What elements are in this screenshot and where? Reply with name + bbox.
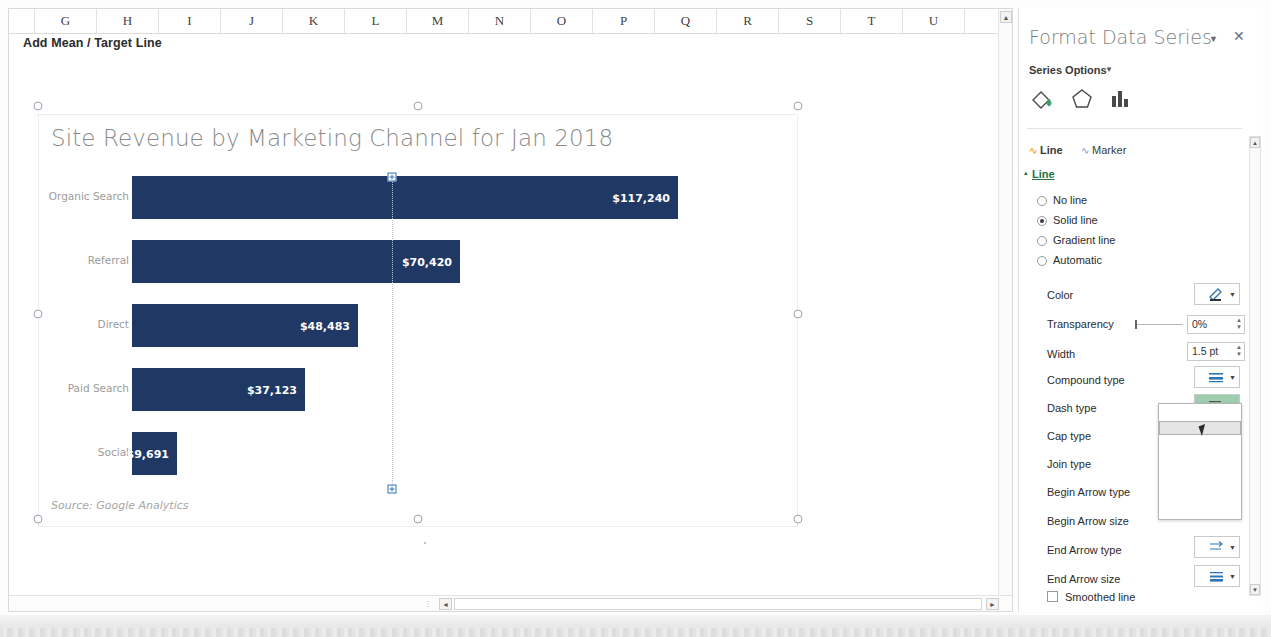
chart-object[interactable]: Site Revenue by Marketing Channel for Ja… [38,114,798,527]
tab-line[interactable]: ∿Line [1029,144,1063,156]
bar-paid-search[interactable]: $37,123 [132,368,305,411]
bar-social[interactable]: $9,691 [132,432,177,475]
bar-direct[interactable]: $48,483 [132,304,358,347]
sheet-scroll-left-arrow[interactable]: ◄ [439,598,452,610]
dash-option-dash[interactable] [1159,449,1241,463]
bar-referral[interactable]: $70,420 [132,240,460,283]
radio-row-no-line[interactable]: No line [1053,194,1087,206]
effects-pentagon-icon[interactable] [1069,86,1095,116]
chart-handle-middle-left[interactable] [34,310,43,319]
transparency-slider-knob[interactable] [1135,320,1137,329]
color-picker-button[interactable]: ▼ [1194,283,1240,305]
column-header-Q[interactable]: Q [655,9,717,33]
label-color: Color [1047,289,1073,301]
smoothed-line-checkbox[interactable] [1047,591,1058,602]
radio-label-no-line: No line [1053,194,1087,206]
transparency-slider-track[interactable] [1137,324,1183,325]
end-arrow-size-button[interactable]: ▼ [1194,565,1240,587]
end-arrow-type-button[interactable]: ▼ [1194,536,1240,558]
chart-handle-bottom-center[interactable] [414,515,423,524]
label-transparency: Transparency [1047,318,1114,330]
section-title-line[interactable]: Line [1032,168,1055,180]
column-header-S[interactable]: S [779,9,841,33]
radio-row-solid-line[interactable]: Solid line [1053,214,1098,226]
column-header-K[interactable]: K [283,9,345,33]
chart-handle-top-center[interactable] [414,102,423,111]
dash-type-gallery[interactable] [1158,403,1242,520]
radio-gradient-line[interactable] [1037,236,1047,246]
line-handle-top[interactable] [388,173,397,182]
fill-bucket-icon[interactable] [1029,86,1055,116]
chevron-down-icon[interactable]: ▼ [1229,291,1236,298]
label-begin-arrow-size: Begin Arrow size [1047,515,1129,527]
chevron-down-icon[interactable]: ▼ [1229,374,1236,381]
chart-title[interactable]: Site Revenue by Marketing Channel for Ja… [51,125,613,151]
radio-row-gradient-line[interactable]: Gradient line [1053,234,1115,246]
pane-scroll-up-arrow[interactable]: ▲ [1250,137,1260,148]
mean-target-line[interactable] [392,177,393,489]
sheet-vertical-scrollbar[interactable]: ▲ ▼ [998,9,1012,611]
spinner-arrows-icon[interactable]: ▲▼ [1236,344,1242,358]
cell-text-add-mean-target-line[interactable]: Add Mean / Target Line [23,36,162,50]
sheet-scroll-right-arrow[interactable]: ► [986,598,999,610]
pane-divider [1027,128,1242,129]
radio-solid-line[interactable] [1037,216,1047,226]
dash-option-dash-dot[interactable] [1159,463,1241,477]
dash-option-square-dot[interactable] [1159,435,1241,449]
transparency-input[interactable]: 0% ▲▼ [1187,315,1245,334]
width-input[interactable]: 1.5 pt ▲▼ [1187,342,1245,361]
format-data-series-pane: Format Data Series ▼ ✕ Series Options ▼ [1018,8,1263,612]
sheet-hscroll-track[interactable] [454,598,982,610]
series-bars-icon[interactable] [1107,86,1133,116]
close-icon[interactable]: ✕ [1233,28,1245,44]
radio-label-gradient-line: Gradient line [1053,234,1115,246]
pane-scroll-down-arrow[interactable]: ▼ [1250,584,1260,595]
chart-handle-bottom-left[interactable] [34,515,43,524]
chart-handle-middle-right[interactable] [794,310,803,319]
bar-organic-search[interactable]: $117,240 [132,176,678,219]
radio-row-automatic[interactable]: Automatic [1053,254,1102,266]
column-header-T[interactable]: T [841,9,903,33]
line-handle-bottom[interactable] [388,485,397,494]
column-header-O[interactable]: O [531,9,593,33]
column-header-H[interactable]: H [97,9,159,33]
column-header-P[interactable]: P [593,9,655,33]
radio-automatic[interactable] [1037,256,1047,266]
column-header-I[interactable]: I [159,9,221,33]
sheet-horizontal-scrollbar[interactable]: ⋮ ◄ ► [9,595,1012,611]
chevron-down-icon[interactable]: ▼ [1105,65,1113,74]
column-header-J[interactable]: J [221,9,283,33]
column-header-M[interactable]: M [407,9,469,33]
bar-value-paid-search: $37,123 [247,383,297,396]
column-header-L[interactable]: L [345,9,407,33]
bar-value-organic-search: $117,240 [612,191,670,204]
radio-no-line[interactable] [1037,196,1047,206]
chart-handle-top-left[interactable] [34,102,43,111]
dash-option-long-dash[interactable] [1159,477,1241,491]
dash-option-long-dash-dot[interactable] [1159,491,1241,505]
chevron-down-icon[interactable]: ▼ [1229,544,1236,551]
sheet-scroll-up-arrow[interactable]: ▲ [1000,11,1012,23]
dash-option-long-dash-dot-dot[interactable] [1159,505,1241,519]
column-header-R[interactable]: R [717,9,779,33]
spinner-arrows-icon[interactable]: ▲▼ [1236,317,1242,331]
app-window: G H I J K L M N O P Q R S T U Add Mean /… [0,0,1271,637]
column-header-G[interactable]: G [35,9,97,33]
section-expander-icon[interactable]: ▴ [1024,169,1028,177]
pane-options-caret-icon[interactable]: ▼ [1209,34,1218,44]
dash-option-solid[interactable] [1159,407,1241,421]
chart-handle-bottom-right[interactable] [794,515,803,524]
pane-vertical-scrollbar[interactable]: ▲ ▼ [1249,136,1261,596]
chart-source-note: Source: Google Analytics [51,499,188,512]
chevron-down-icon[interactable]: ▼ [1229,573,1236,580]
tab-marker[interactable]: ∿Marker [1081,144,1126,156]
scroll-split-handle[interactable]: ⋮ [424,599,432,608]
column-header-U[interactable]: U [903,9,965,33]
chart-plot-area[interactable]: Organic Search $117,240 Referral $70,420… [39,170,799,470]
column-header-corner[interactable] [9,9,35,33]
column-header-N[interactable]: N [469,9,531,33]
compound-type-button[interactable]: ▼ [1194,366,1240,388]
spreadsheet-grid[interactable]: Add Mean / Target Line Site Revenue by M… [9,34,1012,611]
series-options-label[interactable]: Series Options [1029,64,1107,76]
chart-handle-top-right[interactable] [794,102,803,111]
